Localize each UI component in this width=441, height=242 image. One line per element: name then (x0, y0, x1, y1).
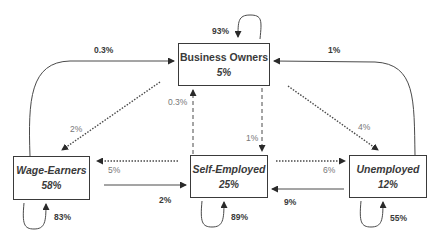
label-self-loop-unemployed: 55% (390, 213, 407, 223)
edge-business-to-unemployed (288, 86, 378, 150)
node-unemployed: Unemployed 12% (349, 155, 427, 198)
label-wage-to-business: 0.3% (94, 45, 113, 55)
node-label: Self-Employed (193, 162, 266, 177)
node-percentage: 5% (217, 65, 231, 80)
label-self-to-business: 0.3% (168, 97, 187, 107)
node-percentage: 25% (219, 177, 239, 192)
label-business-to-unemployed: 4% (358, 122, 370, 132)
self-loop-wage (23, 203, 46, 229)
node-wage-earners: Wage-Earners 58% (13, 156, 90, 200)
label-self-loop-business: 93% (212, 26, 229, 36)
label-business-to-wage: 2% (70, 124, 82, 134)
label-self-loop-wage: 83% (54, 212, 71, 222)
self-loop-business (238, 15, 261, 39)
edge-wage-to-business (29, 61, 174, 156)
self-loop-unemployed (360, 201, 383, 227)
label-unemployed-to-business: 1% (328, 45, 340, 55)
edge-business-to-wage (62, 82, 160, 150)
label-business-to-self: 1% (246, 133, 258, 143)
edge-unemployed-to-business (274, 61, 415, 155)
label-self-to-unemployed: 6% (323, 165, 335, 175)
label-unemployed-to-self: 9% (284, 197, 296, 207)
node-percentage: 12% (378, 177, 398, 192)
node-label: Wage-Earners (16, 163, 86, 178)
label-wage-to-self: 2% (159, 195, 171, 205)
node-business-owners: Business Owners 5% (178, 43, 270, 86)
node-self-employed: Self-Employed 25% (190, 155, 268, 198)
node-label: Business Owners (180, 50, 268, 65)
node-percentage: 58% (41, 178, 61, 193)
label-self-to-wage: 5% (108, 165, 120, 175)
node-label: Unemployed (356, 162, 419, 177)
label-self-loop-self: 89% (231, 212, 248, 222)
self-loop-self (201, 201, 224, 227)
transition-diagram (0, 0, 441, 242)
